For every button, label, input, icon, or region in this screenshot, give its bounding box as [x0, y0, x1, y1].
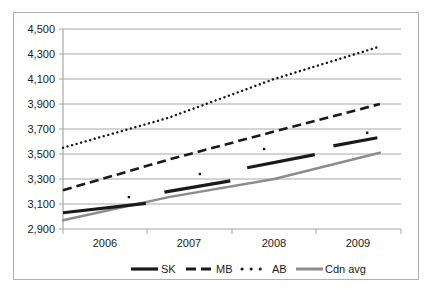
- x-tick-label: 2007: [177, 237, 201, 249]
- x-axis-ticks: [63, 229, 401, 234]
- chart-frame: 4,500 4,300 4,100 3,900 3,700 3,500 3,30…: [13, 12, 419, 280]
- x-tick-label: 2009: [346, 237, 370, 249]
- y-tick-label: 3,900: [27, 98, 55, 110]
- series-line-ab: [63, 47, 380, 148]
- x-tick-label: 2006: [93, 237, 117, 249]
- data-point-marker: [366, 132, 368, 134]
- chart-legend: SK MB AB Cdn avg: [131, 263, 366, 275]
- data-point-marker: [128, 196, 130, 198]
- y-axis-tick-labels: 4,500 4,300 4,100 3,900 3,700 3,500 3,30…: [27, 23, 55, 235]
- y-tick-label: 3,700: [27, 123, 55, 135]
- series-line-cdn-avg: [63, 153, 380, 221]
- y-tick-label: 3,500: [27, 148, 55, 160]
- y-tick-label: 3,300: [27, 173, 55, 185]
- line-chart: 4,500 4,300 4,100 3,900 3,700 3,500 3,30…: [14, 13, 420, 281]
- series-segment-sk: [333, 138, 377, 146]
- x-tick-label: 2008: [262, 237, 286, 249]
- data-point-marker: [199, 173, 201, 175]
- y-tick-label: 3,100: [27, 198, 55, 210]
- legend-label-cdn-avg: Cdn avg: [325, 263, 366, 275]
- series-cdn-avg: [63, 153, 380, 221]
- data-point-marker: [263, 148, 265, 150]
- legend-label-ab: AB: [272, 263, 287, 275]
- x-axis-tick-labels: 2006 2007 2008 2009: [93, 237, 370, 249]
- series-mb: [63, 104, 380, 190]
- series-segment-sk: [164, 181, 230, 192]
- y-tick-label: 4,500: [27, 23, 55, 35]
- y-tick-label: 2,900: [27, 223, 55, 235]
- y-tick-label: 4,100: [27, 73, 55, 85]
- series-segment-sk: [247, 155, 315, 168]
- y-tick-label: 4,300: [27, 48, 55, 60]
- chart-plot-area: 4,500 4,300 4,100 3,900 3,700 3,500 3,30…: [14, 13, 420, 281]
- legend-label-mb: MB: [216, 263, 233, 275]
- legend-label-sk: SK: [161, 263, 176, 275]
- series-line-mb: [63, 104, 380, 190]
